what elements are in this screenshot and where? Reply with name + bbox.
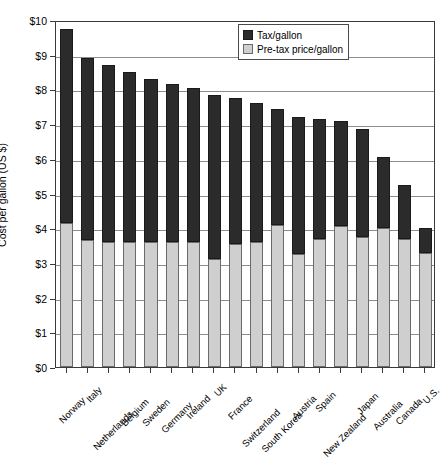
x-axis-tick [340,368,341,373]
light-swatch-icon [243,44,253,54]
x-axis-tick [108,368,109,373]
legend-item-tax: Tax/gallon [243,28,343,42]
legend-label-tax: Tax/gallon [257,29,302,42]
x-axis-tick [192,368,193,373]
x-axis-tick-label: France [226,393,255,422]
x-axis-tick [319,368,320,373]
x-axis-tick [382,368,383,373]
chart-legend: Tax/gallon Pre-tax price/gallon [238,24,349,60]
x-axis-tick-label: Norway [56,395,87,426]
dark-swatch-icon [243,30,253,40]
legend-item-pretax: Pre-tax price/gallon [243,42,343,56]
x-axis-tick [129,368,130,373]
x-axis-tick [424,368,425,373]
x-axis-tick [66,368,67,373]
x-axis-tick-label: New Zealand [321,412,368,459]
x-axis-tick [234,368,235,373]
x-axis-tick [277,368,278,373]
x-axis-tick [150,368,151,373]
x-axis-tick [298,368,299,373]
x-axis-label-wrap: France [247,372,276,401]
x-axis-tick [403,368,404,373]
x-axis-tick [87,368,88,373]
x-axis-tick [213,368,214,373]
legend-label-pretax: Pre-tax price/gallon [257,43,343,56]
x-axis-tick [171,368,172,373]
x-axis-tick [361,368,362,373]
x-axis-tick [256,368,257,373]
